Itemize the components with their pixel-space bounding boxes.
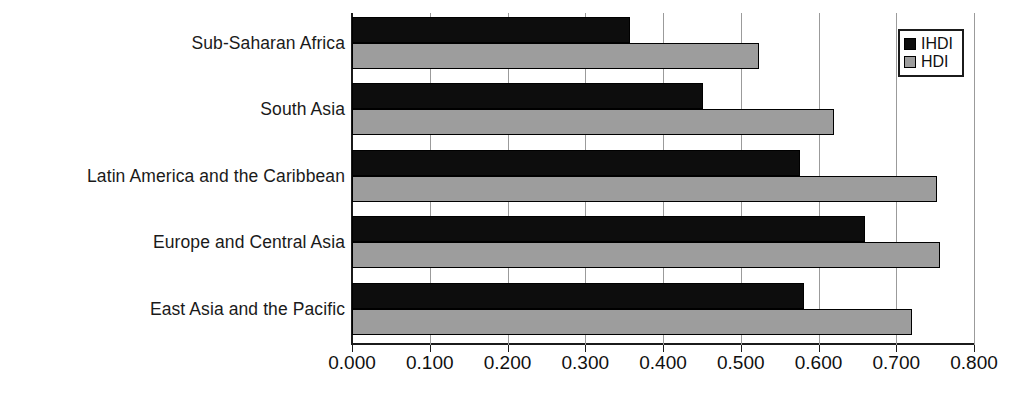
plot-area <box>352 13 974 345</box>
bar-hdi <box>352 176 937 202</box>
gridline <box>974 13 975 345</box>
category-axis-labels: Sub-Saharan AfricaSouth AsiaLatin Americ… <box>0 0 345 403</box>
category-label: South Asia <box>260 99 345 120</box>
x-axis-tick <box>508 345 509 352</box>
bar-ihdi <box>352 216 865 242</box>
bar-hdi <box>352 309 912 335</box>
legend-item: IHDI <box>904 35 957 53</box>
x-axis-tick-label: 0.600 <box>795 352 843 374</box>
x-axis-tick <box>896 345 897 352</box>
category-label: East Asia and the Pacific <box>150 298 345 319</box>
legend-swatch-ihdi <box>904 38 916 50</box>
x-axis-tick-label: 0.700 <box>872 352 920 374</box>
bar-ihdi <box>352 283 804 309</box>
x-axis-tick <box>819 345 820 352</box>
bar-hdi <box>352 109 834 135</box>
x-axis-tick-label: 0.500 <box>717 352 765 374</box>
category-label: Latin America and the Caribbean <box>87 165 345 186</box>
bar-ihdi <box>352 17 630 43</box>
x-axis-tick-label: 0.300 <box>561 352 609 374</box>
x-axis-tick <box>663 345 664 352</box>
legend-item: HDI <box>904 53 957 71</box>
x-axis-tick <box>352 345 353 352</box>
category-label: Europe and Central Asia <box>153 232 345 253</box>
bar-hdi <box>352 242 940 268</box>
x-axis-tick <box>585 345 586 352</box>
x-axis-tick-label: 0.100 <box>406 352 454 374</box>
legend-label: IHDI <box>921 36 953 52</box>
x-axis-tick-label: 0.800 <box>950 352 998 374</box>
x-axis-tick-labels: 0.0000.1000.2000.3000.4000.5000.6000.700… <box>352 352 974 386</box>
chart-legend: IHDIHDI <box>898 29 964 77</box>
x-axis-tick-label: 0.400 <box>639 352 687 374</box>
bar-ihdi <box>352 150 800 176</box>
legend-swatch-hdi <box>904 56 916 68</box>
x-axis-tick-label: 0.200 <box>484 352 532 374</box>
legend-label: HDI <box>921 54 949 70</box>
bar-hdi <box>352 43 759 69</box>
bar-chart: Sub-Saharan AfricaSouth AsiaLatin Americ… <box>0 0 1034 403</box>
x-axis-tick <box>974 345 975 352</box>
x-axis-tick-label: 0.000 <box>328 352 376 374</box>
bar-ihdi <box>352 83 703 109</box>
x-axis-tick <box>430 345 431 352</box>
x-axis-tick <box>741 345 742 352</box>
category-label: Sub-Saharan Africa <box>191 33 345 54</box>
